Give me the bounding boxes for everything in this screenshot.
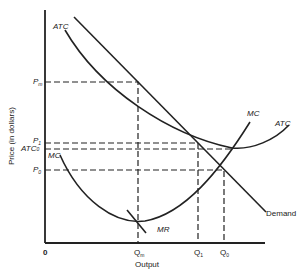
- y-tick-pm: Pm: [33, 77, 43, 87]
- svg-text:P0: P0: [33, 165, 41, 175]
- svg-text:Qm: Qm: [134, 248, 144, 258]
- y-axis-title: Price (in dollars): [7, 107, 16, 165]
- mc-curve: [60, 122, 250, 221]
- demand-label: Demand: [266, 209, 296, 218]
- x-axis-title: Output: [135, 260, 160, 269]
- y-tick-atc0: ATC0: [20, 144, 39, 153]
- x-tick-q0: Q0: [220, 248, 229, 258]
- x-tick-qm: Qm: [134, 248, 144, 258]
- mc-label-right: MC: [247, 109, 260, 118]
- atc-curve: [65, 30, 289, 148]
- cost-curves-diagram: ATC ATC MC MC MR Demand Pm P1 ATC0 P0 Qm…: [0, 0, 306, 279]
- x-tick-q1: Q1: [194, 248, 203, 258]
- p1-q1-guide: [45, 143, 198, 243]
- svg-text:Q0: Q0: [220, 248, 229, 258]
- origin-label: 0: [43, 248, 48, 257]
- svg-text:Pm: Pm: [33, 77, 43, 87]
- svg-text:Q1: Q1: [194, 248, 203, 258]
- y-tick-p0: P0: [33, 165, 41, 175]
- svg-text:ATC0: ATC0: [20, 144, 39, 153]
- atc-label-right: ATC: [274, 119, 291, 128]
- mc-label-left: MC: [48, 151, 61, 160]
- demand-curve: [74, 17, 266, 212]
- p0-q0-guide: [45, 170, 224, 243]
- mr-label: MR: [157, 225, 170, 234]
- atc-label-top: ATC: [52, 22, 69, 31]
